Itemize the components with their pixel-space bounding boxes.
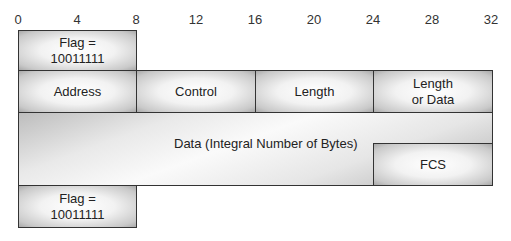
- tick-16: 16: [248, 12, 262, 27]
- bottom-flag-field: Flag = 10011111: [18, 185, 137, 228]
- top-flag-value: 10011111: [51, 51, 105, 67]
- top-flag-field: Flag = 10011111: [18, 30, 137, 71]
- length-or-data-label-2: or Data: [412, 92, 455, 108]
- length-or-data-label-1: Length: [412, 76, 455, 92]
- bottom-flag-value: 10011111: [51, 207, 105, 223]
- fcs-label: FCS: [420, 157, 446, 173]
- length-field: Length: [255, 70, 374, 113]
- control-label: Control: [175, 84, 217, 100]
- tick-32: 32: [484, 12, 498, 27]
- tick-12: 12: [189, 12, 203, 27]
- length-or-data-field: Length or Data: [373, 70, 493, 113]
- tick-4: 4: [73, 12, 80, 27]
- tick-8: 8: [132, 12, 139, 27]
- tick-20: 20: [307, 12, 321, 27]
- tick-28: 28: [425, 12, 439, 27]
- address-label: Address: [54, 84, 102, 100]
- address-field: Address: [18, 70, 137, 113]
- tick-24: 24: [366, 12, 380, 27]
- length-label: Length: [295, 84, 335, 100]
- fcs-field: FCS: [373, 143, 493, 186]
- bottom-flag-label: Flag =: [51, 191, 105, 207]
- data-label: Data (Integral Number of Bytes): [174, 136, 358, 152]
- control-field: Control: [136, 70, 256, 113]
- tick-0: 0: [14, 12, 21, 27]
- top-flag-label: Flag =: [51, 35, 105, 51]
